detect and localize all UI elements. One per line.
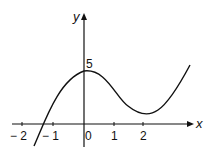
max-value-label: 5 — [86, 58, 93, 70]
y-axis-arrow-icon — [81, 13, 87, 20]
tick-label-2: 2 — [140, 130, 147, 142]
x-axis-label: x — [196, 117, 203, 130]
tick-label-minus-1: − 1 — [42, 130, 59, 142]
function-graph — [0, 0, 207, 156]
tick-label-0: 0 — [85, 130, 92, 142]
x-axis-arrow-icon — [187, 121, 194, 127]
tick-label-1: 1 — [111, 130, 118, 142]
y-axis-label: y — [73, 10, 80, 23]
tick-label-minus-2: − 2 — [10, 130, 27, 142]
